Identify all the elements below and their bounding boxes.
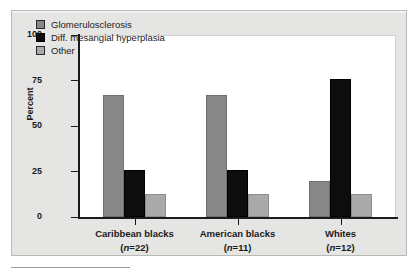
y-axis-tick-label: 0: [16, 212, 42, 221]
panel-top-highlight: [12, 11, 406, 13]
bar-other-caribbean-blacks: [145, 194, 166, 217]
x-group-count: (n=12): [281, 241, 401, 255]
y-axis-tick-label: 25: [16, 167, 42, 176]
y-axis-tick: [71, 126, 78, 127]
y-axis-tick: [71, 171, 78, 172]
bar-diff-mesangial-hyperplasia-whites: [330, 79, 351, 217]
legend-color-swatch: [36, 46, 45, 55]
x-axis-tick: [135, 219, 136, 225]
legend-item: Other: [36, 45, 165, 56]
legend-item-label: Other: [51, 45, 75, 56]
bar-diff-mesangial-hyperplasia-caribbean-blacks: [124, 170, 145, 217]
x-axis-tick: [341, 219, 342, 225]
x-axis-tick: [238, 219, 239, 225]
bars-layer: [80, 35, 396, 217]
x-group-count: (n=22): [75, 241, 195, 255]
x-group-count: (n=11): [178, 241, 298, 255]
bar-diff-mesangial-hyperplasia-american-blacks: [227, 170, 248, 217]
y-axis-tick: [71, 80, 78, 81]
bar-other-whites: [351, 194, 372, 217]
legend-color-swatch: [36, 20, 45, 29]
legend-item-label: Glomerulosclerosis: [51, 19, 132, 30]
legend-color-swatch: [36, 33, 45, 42]
y-axis-title: Percent: [25, 74, 35, 134]
x-axis-group-label: American blacks(n=11): [178, 227, 298, 255]
x-axis-group-label: Caribbean blacks(n=22): [75, 227, 195, 255]
caption-divider: [11, 267, 130, 268]
legend-item: Diff. mesangial hyperplasia: [36, 32, 165, 43]
legend-item-label: Diff. mesangial hyperplasia: [51, 32, 165, 43]
bar-glomerulosclerosis-whites: [309, 181, 330, 217]
bar-other-american-blacks: [248, 194, 269, 217]
legend-item: Glomerulosclerosis: [36, 19, 165, 30]
bar-glomerulosclerosis-american-blacks: [206, 95, 227, 217]
y-axis-tick: [71, 217, 78, 218]
x-group-name: American blacks: [178, 227, 298, 241]
x-axis-group-label: Whites(n=12): [281, 227, 401, 255]
chart-legend: GlomerulosclerosisDiff. mesangial hyperp…: [36, 19, 165, 58]
x-group-name: Whites: [281, 227, 401, 241]
x-group-name: Caribbean blacks: [75, 227, 195, 241]
bar-glomerulosclerosis-caribbean-blacks: [103, 95, 124, 217]
figure-panel: 1007550250 Percent Caribbean blacks(n=22…: [11, 10, 407, 256]
